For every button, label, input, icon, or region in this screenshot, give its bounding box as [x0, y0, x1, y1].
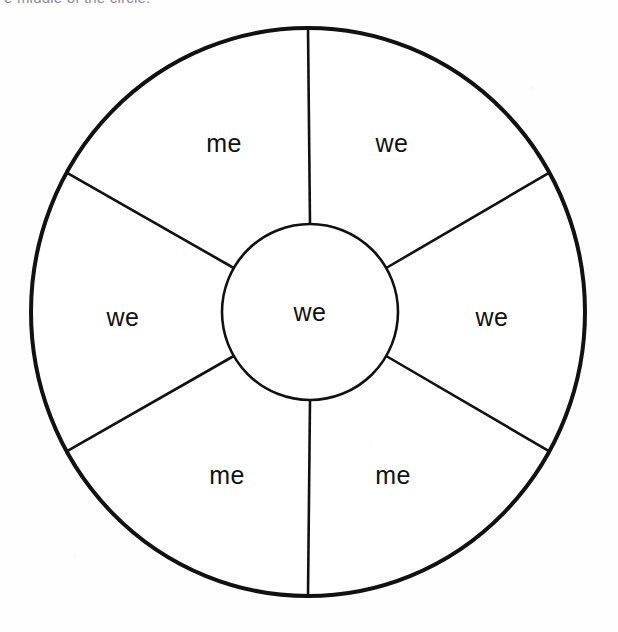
segment-label-left: we: [106, 303, 140, 331]
segment-label-top-right: we: [375, 129, 409, 157]
segment-label-bottom-right: me: [375, 461, 411, 489]
segmented-circle-figure: mewewewememe we: [0, 0, 618, 632]
segment-label-top-left: me: [206, 129, 242, 157]
segment-label-bottom-left: me: [209, 461, 245, 489]
center-label: we: [293, 298, 327, 326]
segmented-circle-svg: mewewewememe we: [0, 0, 618, 632]
segment-label-right: we: [475, 303, 509, 331]
